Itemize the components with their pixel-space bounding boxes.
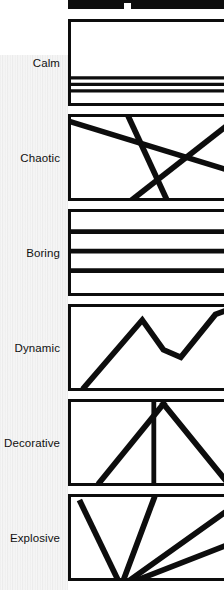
- row-label-chaotic: Chaotic: [0, 151, 60, 164]
- row-label-dynamic: Dynamic: [0, 341, 60, 354]
- drawing-symmetric-cross-with-axis: [71, 402, 224, 483]
- drawing-stroke: [163, 404, 224, 482]
- expression-row: Decorative: [0, 395, 224, 490]
- row-label-decorative: Decorative: [0, 436, 60, 449]
- expression-row: Dynamic: [0, 300, 224, 395]
- expression-row: Boring: [0, 205, 224, 300]
- drawing-panel-dynamic[interactable]: [68, 304, 224, 391]
- drawing-panel-decorative[interactable]: [68, 399, 224, 486]
- drawing-stroke: [131, 123, 224, 198]
- drawing-stroke: [84, 309, 224, 387]
- drawing-panel-boring[interactable]: [68, 209, 224, 296]
- drawing-horizontal-lines-clustered-low: [71, 22, 224, 103]
- drawing-stroke: [81, 503, 121, 578]
- drawing-panel-calm[interactable]: [68, 19, 224, 106]
- row-label-explosive: Explosive: [0, 531, 60, 544]
- expression-row: Explosive: [0, 490, 224, 585]
- row-label-calm: Calm: [0, 56, 60, 69]
- drawing-panel-chaotic[interactable]: [68, 114, 224, 201]
- drawing-zigzag-polyline: [71, 307, 224, 388]
- expression-row: Calm: [0, 15, 224, 110]
- drawing-horizontal-lines-even: [71, 212, 224, 293]
- drawing-crossing-diagonals: [71, 117, 224, 198]
- row-label-boring: Boring: [0, 246, 60, 259]
- drawing-radiating-fan: [71, 497, 224, 578]
- drawing-panel-explosive[interactable]: [68, 494, 224, 581]
- expression-row-list: CalmChaoticBoringDynamicDecorativeExplos…: [0, 0, 224, 590]
- expression-row: Chaotic: [0, 110, 224, 205]
